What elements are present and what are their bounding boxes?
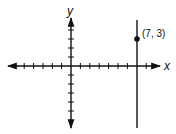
coordinate-plane: (7, 3) x y <box>0 0 176 134</box>
point-label: (7, 3) <box>142 28 165 39</box>
x-axis-label: x <box>163 59 171 73</box>
y-axis-label: y <box>66 4 74 18</box>
point-7-3 <box>134 36 140 42</box>
